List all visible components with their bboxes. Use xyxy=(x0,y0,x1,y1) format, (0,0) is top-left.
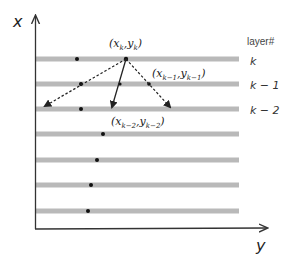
layer-bar-k-1 xyxy=(36,82,239,87)
layer-bar-k xyxy=(36,57,239,62)
layer-bar-5 xyxy=(36,158,239,163)
x-axis-label: x xyxy=(12,12,23,31)
y-axis-horizontal xyxy=(35,228,267,229)
layer-header: layer# xyxy=(247,36,275,47)
layer-diagram: x y layer# k k − 1 k − 2 (xk,yk) (xk−1,y… xyxy=(0,0,284,267)
layer-bar-6 xyxy=(36,183,239,188)
layer-bars xyxy=(36,57,239,214)
label-prev1-point: (xk−1,yk−1) xyxy=(152,67,206,82)
layer-bar-4 xyxy=(36,132,239,137)
dot-layer-k-2 xyxy=(79,107,83,111)
layer-bar-7 xyxy=(36,209,239,214)
label-current-point: (xk,yk) xyxy=(109,37,142,52)
y-axis-label: y xyxy=(255,236,266,255)
dot-layer-k xyxy=(75,57,79,61)
label-prev2-point: (xk−2,yk−2) xyxy=(111,115,165,130)
dot-layer-4 xyxy=(101,132,105,136)
dot-layer-5 xyxy=(95,158,99,162)
layer-label-k: k xyxy=(250,55,257,68)
layer-label-k-1: k − 1 xyxy=(250,79,280,92)
dot-layer-6 xyxy=(89,183,93,187)
dot-layer-7 xyxy=(86,209,90,213)
layer-label-k-2: k − 2 xyxy=(250,104,280,117)
layer-bar-k-2 xyxy=(36,107,239,112)
